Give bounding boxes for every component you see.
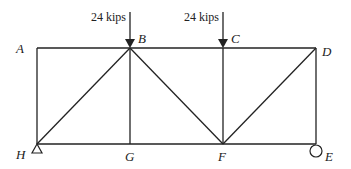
arrow-down-icon xyxy=(218,39,228,48)
circle-roller-icon xyxy=(310,145,322,157)
node-label-C: C xyxy=(231,31,240,46)
node-label-A: A xyxy=(15,41,24,56)
arrow-down-icon xyxy=(125,39,135,48)
member-BF xyxy=(130,48,223,144)
node-label-D: D xyxy=(321,44,332,59)
triangle-pin-icon xyxy=(32,144,42,153)
node-label-E: E xyxy=(324,149,333,164)
node-label-F: F xyxy=(217,149,227,164)
member-FD xyxy=(223,48,316,144)
truss-members xyxy=(37,48,316,144)
node-label-H: H xyxy=(15,147,26,162)
load-B: 24 kips xyxy=(91,10,135,48)
member-HB xyxy=(37,48,130,144)
truss-diagram: 24 kips 24 kips A B C D H G F E xyxy=(0,0,351,169)
load-label-B: 24 kips xyxy=(91,10,126,24)
load-C: 24 kips xyxy=(184,10,228,48)
node-label-B: B xyxy=(138,31,146,46)
node-label-G: G xyxy=(125,149,135,164)
load-label-C: 24 kips xyxy=(184,10,219,24)
